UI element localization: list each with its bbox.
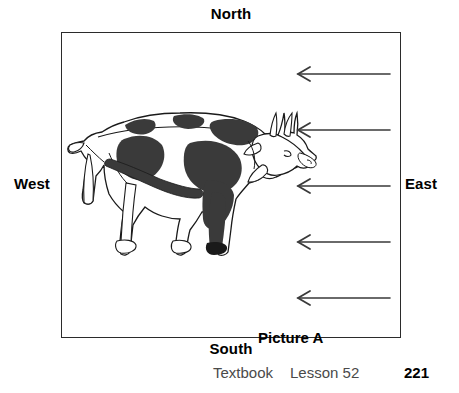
picture-frame: Picture A [61,32,401,338]
wind-arrow-group [62,33,402,339]
wind-arrow-2 [298,123,390,137]
wind-arrow-5 [298,291,390,305]
wind-arrow-3 [298,179,390,193]
compass-label-west: West [14,175,50,192]
picture-caption: Picture A [258,329,323,346]
wind-arrow-1 [298,67,390,81]
footer-lesson-label: Lesson 52 [290,364,359,381]
compass-label-east: East [405,175,437,192]
worksheet-page: North West East South [0,0,459,393]
footer-textbook-label: Textbook [213,364,273,381]
compass-label-north: North [0,5,459,22]
compass-label-south: South [0,340,459,357]
footer: Textbook Lesson 52 221 [0,364,459,390]
footer-page-number: 221 [404,364,429,381]
wind-arrow-4 [298,235,390,249]
